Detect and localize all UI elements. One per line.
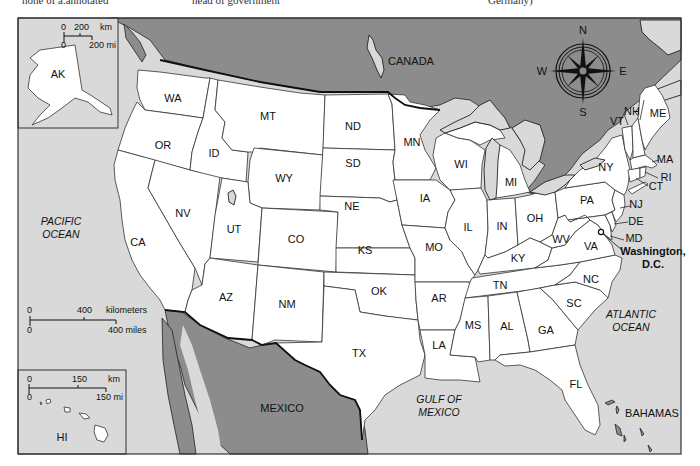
svg-text:AL: AL <box>500 320 513 332</box>
svg-text:IN: IN <box>497 220 508 232</box>
svg-text:ND: ND <box>345 120 361 132</box>
svg-text:OR: OR <box>155 139 172 151</box>
alaska-inset: AK 0 200 km 0 200 mi <box>18 18 118 128</box>
svg-text:MI: MI <box>505 176 517 188</box>
svg-text:NE: NE <box>344 200 359 212</box>
svg-text:MT: MT <box>260 110 276 122</box>
svg-text:150: 150 <box>72 374 87 384</box>
svg-text:MN: MN <box>403 136 420 148</box>
svg-text:MA: MA <box>657 153 674 165</box>
svg-text:SD: SD <box>345 157 360 169</box>
ocean-label-gulf-1: GULF OF <box>416 393 462 405</box>
svg-text:400: 400 <box>77 305 92 315</box>
svg-text:VT: VT <box>610 115 624 127</box>
svg-text:IL: IL <box>463 221 472 233</box>
svg-text:0: 0 <box>61 22 66 32</box>
svg-text:UT: UT <box>227 223 242 235</box>
svg-text:0: 0 <box>61 40 66 50</box>
svg-text:WV: WV <box>552 233 570 245</box>
svg-text:NY: NY <box>598 161 614 173</box>
svg-text:CO: CO <box>288 233 305 245</box>
svg-text:0: 0 <box>27 392 32 402</box>
state-ks[interactable] <box>336 248 415 275</box>
svg-text:400 miles: 400 miles <box>108 325 147 335</box>
capital-label-line1: Washington, <box>620 245 686 257</box>
svg-text:MO: MO <box>425 241 443 253</box>
hawaii-inset: HI 0 150 km 0 150 mi <box>18 370 126 454</box>
svg-text:MD: MD <box>625 232 642 244</box>
svg-text:MS: MS <box>465 319 482 331</box>
svg-text:TX: TX <box>352 347 367 359</box>
svg-text:NC: NC <box>583 273 599 285</box>
svg-text:VA: VA <box>584 240 599 252</box>
svg-text:KY: KY <box>511 252 526 264</box>
compass-e: E <box>619 65 626 77</box>
svg-text:CA: CA <box>130 236 146 248</box>
svg-text:150 mi: 150 mi <box>96 392 123 402</box>
ocean-label-atlantic-2: OCEAN <box>612 321 650 333</box>
svg-text:km: km <box>108 374 120 384</box>
ocean-label-gulf-2: MEXICO <box>418 406 459 418</box>
svg-text:0: 0 <box>27 374 32 384</box>
country-label-mexico: MEXICO <box>260 402 304 414</box>
svg-text:NV: NV <box>175 207 191 219</box>
svg-text:DE: DE <box>628 215 643 227</box>
capital-label-line2: D.C. <box>642 258 664 270</box>
country-label-bahamas: BAHAMAS <box>625 407 679 419</box>
svg-text:0: 0 <box>27 325 32 335</box>
compass-n: N <box>579 24 587 36</box>
svg-text:NH: NH <box>624 105 640 117</box>
svg-text:FL: FL <box>570 378 583 390</box>
svg-text:TN: TN <box>493 279 508 291</box>
svg-text:200: 200 <box>74 22 89 32</box>
svg-text:0: 0 <box>27 305 32 315</box>
svg-text:GA: GA <box>538 324 555 336</box>
compass-s: S <box>579 106 586 118</box>
country-label-canada: CANADA <box>388 55 435 67</box>
svg-text:IA: IA <box>420 192 431 204</box>
svg-text:SC: SC <box>566 297 581 309</box>
svg-text:WA: WA <box>164 92 182 104</box>
svg-text:ME: ME <box>650 107 667 119</box>
svg-text:WY: WY <box>275 172 293 184</box>
svg-text:NM: NM <box>278 298 295 310</box>
svg-text:AZ: AZ <box>219 291 233 303</box>
ocean-label-atlantic-1: ATLANTIC <box>605 308 656 320</box>
svg-text:kilometers: kilometers <box>106 305 148 315</box>
svg-text:OH: OH <box>527 212 544 224</box>
state-label-hi: HI <box>57 431 68 443</box>
svg-text:KS: KS <box>358 244 373 256</box>
svg-text:PA: PA <box>580 194 595 206</box>
state-label-ak: AK <box>51 68 66 80</box>
svg-text:OK: OK <box>371 285 388 297</box>
svg-text:AR: AR <box>431 292 446 304</box>
ocean-label-pacific-1: PACIFIC <box>41 215 82 227</box>
svg-text:WI: WI <box>454 158 467 170</box>
capital-marker-icon[interactable] <box>598 229 603 234</box>
svg-text:CT: CT <box>649 180 664 192</box>
state-ia[interactable] <box>393 180 455 228</box>
svg-text:km: km <box>100 22 112 32</box>
svg-text:NJ: NJ <box>629 198 642 210</box>
compass-w: W <box>537 65 548 77</box>
svg-text:LA: LA <box>432 339 446 351</box>
ocean-label-pacific-2: OCEAN <box>42 228 80 240</box>
state-ri[interactable] <box>640 167 646 178</box>
svg-text:200 mi: 200 mi <box>89 40 116 50</box>
us-map: AK 0 200 km 0 200 mi HI 0 <box>0 0 700 466</box>
svg-text:ID: ID <box>209 147 220 159</box>
